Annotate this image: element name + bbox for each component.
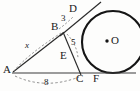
measure-label-5: 5 — [71, 38, 76, 47]
segment-ab — [13, 33, 63, 72]
point-label-f: F — [93, 73, 99, 84]
point-label-d: D — [69, 3, 77, 14]
segment-bd-secant — [60, 2, 101, 36]
measure-label-x: x — [25, 41, 29, 50]
point-label-c: C — [76, 73, 83, 84]
point-label-o: O — [111, 35, 119, 46]
geometry-figure: A B D E C F O x 3 5 8 — [0, 0, 140, 91]
point-label-b: B — [51, 21, 58, 32]
point-label-e: E — [60, 50, 67, 61]
point-label-a: A — [3, 64, 11, 75]
center-dot-o — [105, 39, 108, 42]
measure-label-8: 8 — [44, 78, 49, 87]
measure-label-3: 3 — [61, 14, 66, 23]
